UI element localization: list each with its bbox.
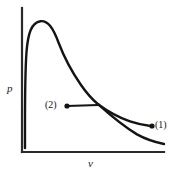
curve-label-1: (1): [155, 120, 167, 130]
marker-point-2: [64, 103, 69, 108]
main-curve-path: [25, 21, 98, 148]
y-axis-label: p: [7, 83, 13, 94]
curve-label-2: (2): [45, 100, 57, 110]
axes-group: [22, 8, 164, 152]
leader-line-path: [67, 105, 99, 106]
x-axis-label: v: [88, 158, 93, 169]
branch-upper-path: [98, 104, 152, 126]
thermodynamic-pv-diagram: p v (1) (2): [0, 0, 175, 180]
plot-canvas: [0, 0, 175, 180]
marker-point-1: [149, 123, 154, 128]
curves-group: [25, 21, 164, 148]
